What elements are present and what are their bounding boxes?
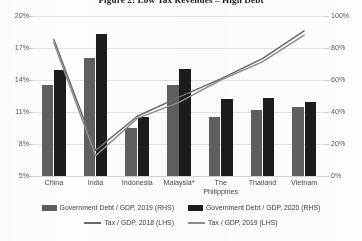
right-axis-tickmark — [325, 112, 329, 113]
category-label-line: India — [75, 178, 117, 187]
left-axis-tickmark — [29, 16, 33, 17]
legend-row-lines: Tax / GDP, 2018 (LHS)Tax / GDP, 2019 (LH… — [0, 215, 362, 230]
legend-swatch-bar-icon — [42, 205, 57, 211]
legend-swatch-line-icon — [84, 222, 101, 224]
right-axis-tickmark — [325, 80, 329, 81]
left-axis-tick: 20% — [5, 13, 29, 20]
figure-container: Figure 2: Low Tax Revenues – High Debt 2… — [0, 0, 362, 241]
right-axis-tick: 20% — [331, 141, 359, 148]
left-axis-tick: 14% — [5, 77, 29, 84]
right-axis-tickmark — [325, 16, 329, 17]
category-label-line: Vietnam — [283, 178, 325, 187]
category-label-line: Indonesia — [116, 178, 158, 187]
legend-item[interactable]: Tax / GDP, 2018 (LHS) — [84, 219, 174, 226]
legend-row-bars: Government Debt / GDP, 2019 (RHS)Governm… — [0, 200, 362, 215]
legend-item[interactable]: Tax / GDP, 2019 (LHS) — [188, 219, 278, 226]
legend-label: Tax / GDP, 2018 (LHS) — [104, 219, 174, 226]
legend-swatch-line-icon — [188, 222, 205, 224]
right-axis-tick: 100% — [331, 13, 359, 20]
right-axis-tick: 80% — [331, 45, 359, 52]
plot-area — [33, 16, 325, 176]
left-axis-tickmark — [29, 48, 33, 49]
category-label-line: China — [33, 178, 75, 187]
legend-label: Government Debt / GDP, 2019 (RHS) — [60, 204, 174, 211]
legend-item[interactable]: Government Debt / GDP, 2019 (RHS) — [42, 204, 174, 211]
category-axis-labels: ChinaIndiaIndonesiaMalaysia*ThePhilippin… — [33, 178, 325, 200]
left-axis-tick: 17% — [5, 45, 29, 52]
category-label-line: Malaysia* — [158, 178, 200, 187]
line-series-layer — [33, 16, 325, 176]
right-axis-tick: 40% — [331, 109, 359, 116]
legend-label: Tax / GDP, 2019 (LHS) — [208, 219, 278, 226]
category-label-line: The — [200, 178, 242, 187]
right-axis-tickmark — [325, 48, 329, 49]
right-axis-tick: 0% — [331, 173, 359, 180]
gridline — [33, 176, 325, 177]
line-series-2018 — [54, 31, 304, 150]
category-label: Thailand — [242, 178, 284, 187]
left-axis-tickmark — [29, 80, 33, 81]
chart-legend: Government Debt / GDP, 2019 (RHS)Governm… — [0, 200, 362, 230]
right-axis-tickmark — [325, 176, 329, 177]
category-label: India — [75, 178, 117, 187]
left-axis-tickmark — [29, 144, 33, 145]
category-label: China — [33, 178, 75, 187]
category-label-line: Thailand — [242, 178, 284, 187]
chart-title: Figure 2: Low Tax Revenues – High Debt — [0, 0, 362, 5]
left-axis-tick: 5% — [5, 173, 29, 180]
left-axis-tickmark — [29, 112, 33, 113]
category-label: Vietnam — [283, 178, 325, 187]
right-axis-tick: 60% — [331, 77, 359, 84]
legend-item[interactable]: Government Debt / GDP, 2020 (RHS) — [188, 204, 320, 211]
left-axis-tick: 11% — [5, 109, 29, 116]
category-label-line: Philippines — [200, 187, 242, 196]
legend-swatch-bar-icon — [188, 205, 203, 211]
category-label: ThePhilippines — [200, 178, 242, 196]
right-axis-tickmark — [325, 144, 329, 145]
legend-label: Government Debt / GDP, 2020 (RHS) — [206, 204, 320, 211]
left-axis-tickmark — [29, 176, 33, 177]
left-axis-tick: 8% — [5, 141, 29, 148]
category-label: Malaysia* — [158, 178, 200, 187]
category-label: Indonesia — [116, 178, 158, 187]
